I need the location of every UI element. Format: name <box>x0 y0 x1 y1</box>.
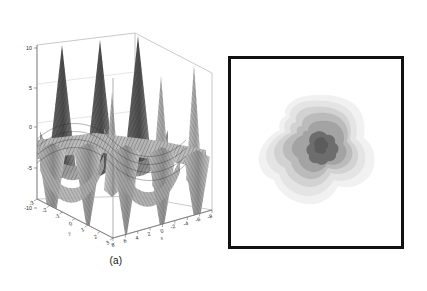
panel-a-caption: (a) <box>96 255 136 266</box>
x-axis-label: x <box>159 234 164 241</box>
y-tick-1: -2 <box>41 206 48 213</box>
surface3d-plot: 10 5 0 -5 -10 -3 -2 <box>0 0 220 250</box>
figure-container: 10 5 0 -5 -10 -3 -2 <box>0 0 427 291</box>
x-tick-4: 0 <box>160 227 165 234</box>
y-tick-3: 0 <box>68 220 73 227</box>
z-tick-2: 0 <box>29 124 32 130</box>
y-axis-label: y <box>66 229 72 236</box>
y-tick-6: 3 <box>105 239 110 246</box>
y-axis: -3 -2 -1 0 1 2 3 y <box>28 199 113 246</box>
x-tick-3: 2 <box>147 230 152 237</box>
z-axis: 10 5 0 -5 -10 <box>24 45 37 211</box>
x-tick-6: -4 <box>183 220 189 227</box>
surface-mesh <box>36 36 210 240</box>
y-tick-5: 2 <box>93 233 98 240</box>
y-tick-0: -3 <box>28 199 35 206</box>
x-tick-7: -6 <box>195 216 201 223</box>
panel-a-surface3d: 10 5 0 -5 -10 -3 -2 <box>0 0 220 291</box>
panel-b-contour: (b) <box>220 0 427 291</box>
z-tick-1: 5 <box>29 85 32 91</box>
x-tick-0: 8 <box>111 241 116 248</box>
x-tick-8: -8 <box>207 213 213 220</box>
x-tick-1: 6 <box>123 237 128 244</box>
y-tick-4: 1 <box>80 226 85 233</box>
x-tick-5: -2 <box>170 223 176 230</box>
z-tick-0: 10 <box>26 45 32 51</box>
contour-plot <box>228 56 404 249</box>
x-tick-2: 4 <box>135 234 140 241</box>
z-tick-3: -5 <box>27 165 32 171</box>
